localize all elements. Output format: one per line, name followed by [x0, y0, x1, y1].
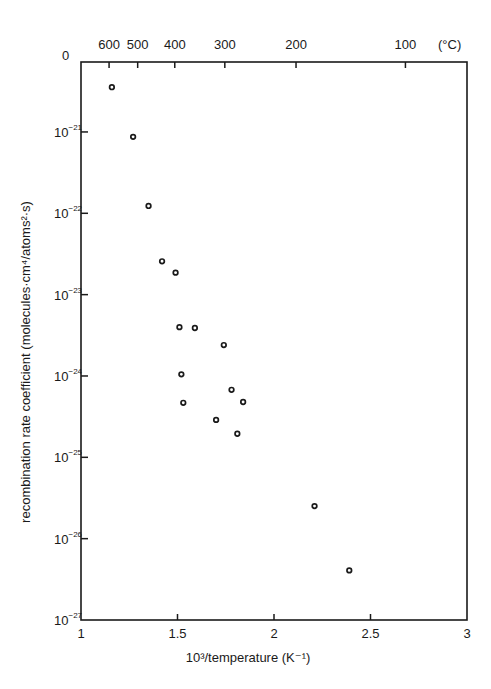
- data-point: [173, 270, 178, 275]
- y-tick-label: 10−22: [54, 204, 83, 221]
- x-axis-ticks: 11.522.53: [77, 614, 470, 641]
- celsius-axis-ticks: 600500400300200100: [98, 37, 416, 68]
- data-point: [131, 135, 136, 140]
- data-point: [241, 400, 246, 405]
- data-point: [222, 343, 227, 348]
- x-tick-label: 3: [463, 626, 470, 641]
- celsius-tick-label: 100: [395, 37, 417, 52]
- celsius-tick-label: 600: [98, 37, 120, 52]
- data-points: [110, 85, 352, 573]
- data-point: [235, 431, 240, 436]
- x-tick-label: 2: [270, 626, 277, 641]
- celsius-tick-label: 400: [164, 37, 186, 52]
- y-tick-label: 10−25: [54, 448, 83, 465]
- x-axis-title: 10³/temperature (K⁻¹): [186, 650, 311, 665]
- y-top-label: 0: [62, 48, 69, 63]
- x-tick-label: 1.5: [168, 626, 186, 641]
- y-tick-label: 10−23: [54, 286, 83, 303]
- data-point: [214, 418, 219, 423]
- y-axis-title: recombination rate coefficient (molecule…: [18, 201, 33, 523]
- y-tick-label: 10−24: [54, 367, 83, 384]
- celsius-tick-label: 500: [127, 37, 149, 52]
- data-point: [160, 259, 165, 264]
- data-point: [110, 85, 115, 90]
- plot-frame: [81, 62, 467, 620]
- data-point: [193, 326, 198, 331]
- data-point: [177, 325, 182, 330]
- celsius-tick-label: 200: [285, 37, 307, 52]
- scatter-chart: 11.522.53 10−2110−2210−2310−2410−2510−26…: [0, 0, 491, 689]
- y-tick-label: 10−26: [54, 530, 83, 547]
- data-point: [146, 204, 151, 209]
- x-tick-label: 2.5: [361, 626, 379, 641]
- data-point: [179, 372, 184, 377]
- data-point: [347, 568, 352, 573]
- data-point: [312, 504, 317, 509]
- data-point: [229, 388, 234, 393]
- celsius-tick-label: 300: [214, 37, 236, 52]
- y-axis-ticks: 10−2110−2210−2310−2410−2510−2610−27: [54, 123, 88, 628]
- y-tick-label: 10−21: [54, 123, 83, 140]
- data-point: [181, 401, 186, 406]
- x-tick-label: 1: [77, 626, 84, 641]
- celsius-axis-label: (°C): [438, 37, 461, 52]
